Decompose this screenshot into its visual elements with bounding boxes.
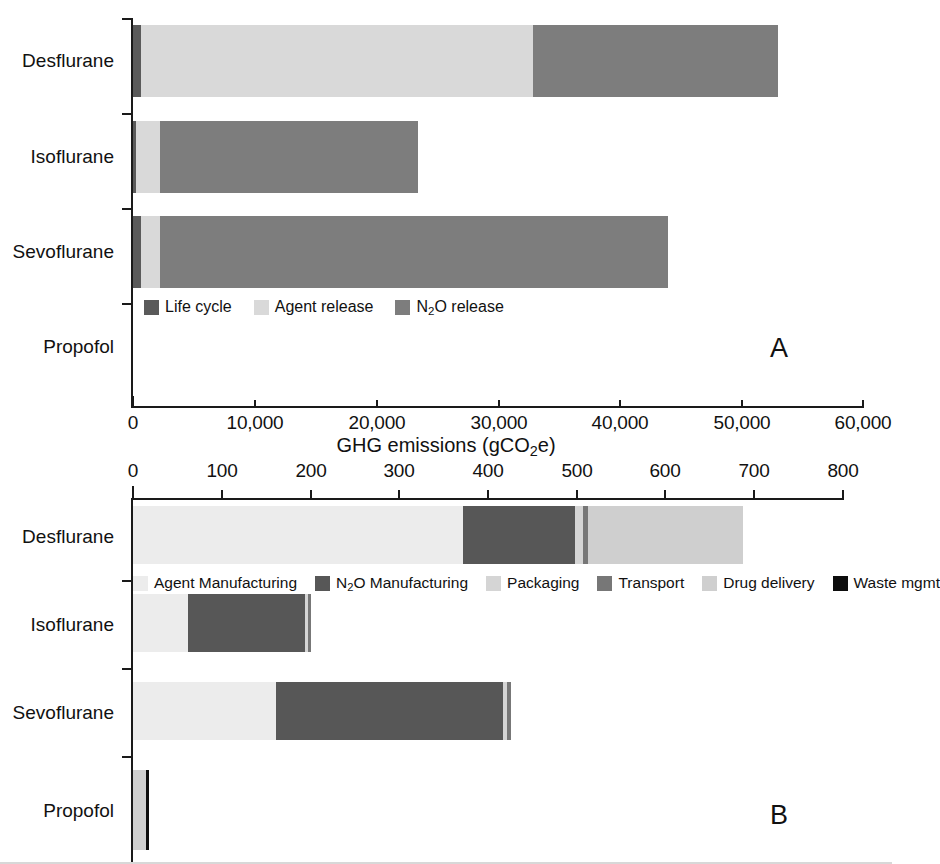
legend-label: Life cycle <box>165 298 232 316</box>
panel-a-ytick <box>122 113 132 115</box>
legend-swatch-icon <box>395 300 410 315</box>
panel-b-xticklabel: 500 <box>561 460 592 482</box>
segment-agent-manufacturing <box>133 506 463 564</box>
panel-a-xtick <box>132 396 134 408</box>
panel-a: 0 10,000 20,000 30,000 40,000 50,000 60,… <box>0 0 892 440</box>
panel-a-xticklabel: 0 <box>128 412 138 434</box>
segment-agent-release <box>136 121 160 193</box>
panel-a-ytick <box>122 208 132 210</box>
panel-b-xticklabel: 800 <box>827 460 858 482</box>
panel-a-xticklabel: 40,000 <box>592 412 649 434</box>
panel-a-xtick <box>498 400 500 408</box>
legend-swatch-icon <box>597 576 612 591</box>
legend-label: Transport <box>618 574 684 592</box>
segment-agent-manufacturing <box>133 770 146 850</box>
panel-a-category-label: Sevoflurane <box>13 241 114 263</box>
segment-life-cycle <box>133 216 141 288</box>
panel-a-bar-isoflurane <box>133 121 418 193</box>
legend-item-waste-mgmt: Waste mgmt <box>833 574 940 592</box>
legend-item-life-cycle: Life cycle <box>144 298 232 316</box>
panel-b-legend: Agent Manufacturing N2O Manufacturing Pa… <box>133 574 940 593</box>
panel-b-ytick <box>122 756 132 758</box>
legend-swatch-icon <box>133 576 148 591</box>
panel-a-category-label: Desflurane <box>22 50 114 72</box>
panel-b-xticklabel: 300 <box>383 460 414 482</box>
legend-swatch-icon <box>486 576 501 591</box>
panel-a-xticklabel: 10,000 <box>227 412 284 434</box>
panel-a-xticklabel: 50,000 <box>714 412 771 434</box>
segment-n2o-release <box>160 121 418 193</box>
panel-a-category-label: Isoflurane <box>31 146 114 168</box>
panel-b-xticklabel: 100 <box>206 460 237 482</box>
segment-transport <box>507 682 511 740</box>
panel-b-xticklabel: 0 <box>128 460 138 482</box>
legend-item-drug-delivery: Drug delivery <box>702 574 814 592</box>
segment-n2o-manufacturing <box>276 682 503 740</box>
panel-a-xtick <box>862 400 864 408</box>
legend-swatch-icon <box>315 576 330 591</box>
legend-label: Waste mgmt <box>854 574 940 592</box>
panel-b-ytick <box>122 668 132 670</box>
segment-agent-manufacturing <box>133 594 188 652</box>
legend-label: Agent release <box>275 298 374 316</box>
panel-b-category-label: Propofol <box>43 800 114 822</box>
panel-a-bar-sevoflurane <box>133 216 668 288</box>
segment-agent-release <box>141 216 160 288</box>
panel-a-xticklabel: 30,000 <box>471 412 528 434</box>
legend-item-n2o-release: N2O release <box>395 298 503 317</box>
segment-packaging <box>575 506 583 564</box>
panel-b-bar-isoflurane <box>133 594 311 652</box>
panel-b-ytick <box>122 580 132 582</box>
segment-agent-manufacturing <box>133 682 276 740</box>
panel-b-x-axis <box>131 498 844 500</box>
legend-item-agent-release: Agent release <box>254 298 374 316</box>
panel-b-xticklabel: 600 <box>649 460 680 482</box>
panel-a-bar-desflurane <box>133 25 778 97</box>
legend-label: N2O Manufacturing <box>336 574 468 593</box>
legend-swatch-icon <box>144 300 159 315</box>
legend-item-agent-manufacturing: Agent Manufacturing <box>133 574 297 592</box>
segment-n2o-manufacturing <box>463 506 575 564</box>
panel-a-ytick <box>122 18 132 20</box>
panel-a-ytick <box>122 303 132 305</box>
panel-a-xtick <box>741 400 743 408</box>
legend-label: Packaging <box>507 574 579 592</box>
segment-n2o-release <box>160 216 668 288</box>
panel-a-xtick <box>619 400 621 408</box>
panel-a-xticklabel: 20,000 <box>349 412 406 434</box>
panel-a-xtick <box>254 400 256 408</box>
panel-b-xticklabel: 400 <box>472 460 503 482</box>
segment-transport <box>308 594 311 652</box>
panel-b-bar-sevoflurane <box>133 682 511 740</box>
panel-a-legend: Life cycle Agent release N2O release <box>144 298 526 317</box>
segment-n2o-manufacturing <box>188 594 305 652</box>
panel-b-category-label: Desflurane <box>22 526 114 548</box>
legend-swatch-icon <box>833 576 848 591</box>
panel-b-category-label: Isoflurane <box>31 614 114 636</box>
panel-a-letter: A <box>770 333 788 364</box>
legend-swatch-icon <box>254 300 269 315</box>
panel-b-xticklabel: 700 <box>738 460 769 482</box>
legend-label: Agent Manufacturing <box>154 574 297 592</box>
panel-b-xticklabel: 200 <box>295 460 326 482</box>
segment-agent-release <box>141 25 533 97</box>
segment-waste-mgmt <box>146 770 149 850</box>
panel-a-category-label: Propofol <box>43 336 114 358</box>
panel-b-bar-desflurane <box>133 506 743 564</box>
legend-label: N2O release <box>416 298 503 317</box>
legend-item-transport: Transport <box>597 574 684 592</box>
panel-b: 0 100 200 300 400 500 600 700 800 Desflu… <box>0 440 892 864</box>
legend-item-packaging: Packaging <box>486 574 579 592</box>
legend-swatch-icon <box>702 576 717 591</box>
legend-label: Drug delivery <box>723 574 814 592</box>
segment-drug-delivery <box>588 506 743 564</box>
legend-item-n2o-manufacturing: N2O Manufacturing <box>315 574 468 593</box>
panel-b-bar-propofol <box>133 770 149 850</box>
panel-a-xtick <box>376 400 378 408</box>
panel-b-category-label: Sevoflurane <box>13 702 114 724</box>
panel-b-letter: B <box>770 800 788 831</box>
panel-a-xticklabel: 60,000 <box>835 412 892 434</box>
segment-life-cycle <box>133 25 141 97</box>
segment-n2o-release <box>533 25 778 97</box>
